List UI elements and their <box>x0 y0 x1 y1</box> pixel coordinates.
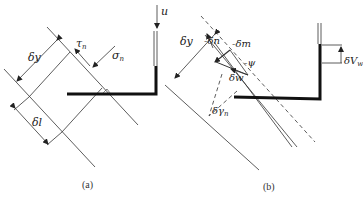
delta-gamma-symbol: δγ <box>212 105 224 116</box>
caption-a: (a) <box>82 180 93 190</box>
label-delta-V-w: δVw <box>344 56 363 68</box>
delta-V-subscript: w <box>357 60 363 68</box>
label-delta-n: -δn <box>204 36 220 46</box>
tau-arrow <box>75 49 90 66</box>
delta-gamma-subscript: n <box>224 110 229 118</box>
sigma-symbol: σ <box>112 49 120 62</box>
band-line-lower <box>4 69 95 167</box>
label-delta-l: δl <box>32 117 42 128</box>
label-sigma-n: σn <box>112 50 124 63</box>
dimension-delta-l-ext <box>14 97 29 110</box>
label-delta-w: δw <box>229 73 244 83</box>
band-line-upper <box>47 27 138 125</box>
band-line-b-1 <box>205 35 297 147</box>
wall-profile <box>67 66 156 94</box>
label-delta-m: -δm <box>232 39 251 49</box>
label-delta-y-b: δy <box>180 36 193 47</box>
panel-a <box>4 5 157 167</box>
tau-subscript: n <box>82 43 87 51</box>
label-psi: -ψ <box>244 58 255 68</box>
delta-V-symbol: δV <box>344 55 357 66</box>
wall-profile-b <box>234 44 320 99</box>
label-delta-y-a: δy <box>28 52 41 63</box>
label-u: u <box>161 6 168 17</box>
label-delta-gamma-n: δγn <box>212 106 229 118</box>
dimension-delta-l-ext2 <box>47 132 62 145</box>
label-tau-n: τn <box>76 38 87 51</box>
caption-b: (b) <box>263 182 275 192</box>
sigma-subscript: n <box>120 55 125 63</box>
